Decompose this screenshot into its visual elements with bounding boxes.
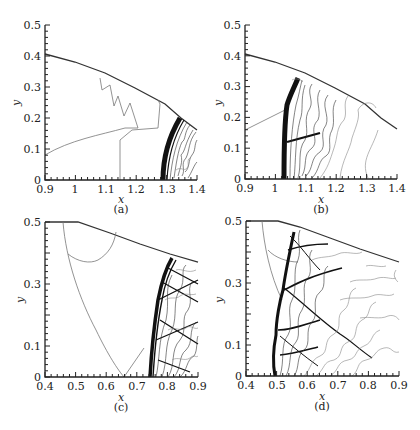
contour-line <box>268 250 298 262</box>
svg-text:1.4: 1.4 <box>388 182 406 195</box>
contour-line <box>124 348 144 377</box>
svg-text:0.2: 0.2 <box>24 112 42 125</box>
svg-text:0.8: 0.8 <box>359 379 377 392</box>
outer-boundary <box>246 221 399 262</box>
y-axis-label: y <box>10 99 23 107</box>
svg-text:0.3: 0.3 <box>225 277 243 290</box>
svg-text:0.5: 0.5 <box>24 216 42 229</box>
svg-text:0.8: 0.8 <box>158 380 176 393</box>
axes-frame <box>45 25 197 180</box>
axes-frame <box>245 25 397 179</box>
panel-caption: (d) <box>314 400 330 413</box>
svg-text:0.6: 0.6 <box>97 380 115 393</box>
y-axis-label: y <box>14 296 27 304</box>
svg-text:0.9: 0.9 <box>36 183 54 196</box>
svg-text:1.3: 1.3 <box>358 182 376 195</box>
panel-d: 0 0.1 0.3 0.5 0.4 0.5 0.6 0.7 0.8 0.9 x … <box>213 215 408 413</box>
svg-text:0.9: 0.9 <box>189 380 207 393</box>
svg-text:0.1: 0.1 <box>24 143 42 156</box>
panel-d-plot-area <box>246 221 399 376</box>
svg-text:0.4: 0.4 <box>36 380 54 393</box>
svg-text:0.9: 0.9 <box>390 379 408 392</box>
svg-text:1.2: 1.2 <box>127 183 145 196</box>
shock-front <box>284 78 298 179</box>
contour-line <box>63 222 124 377</box>
panel-b-plot-area <box>245 54 397 179</box>
y-tick-labels: 0 0.1 0.2 0.3 0.4 0.5 <box>224 19 242 186</box>
contour-line <box>245 110 285 130</box>
svg-text:0.5: 0.5 <box>67 380 85 393</box>
y-tick-labels: 0 0.1 0.2 0.3 0.4 0.5 <box>24 19 42 187</box>
svg-text:0.7: 0.7 <box>329 379 347 392</box>
contour-line <box>262 221 282 300</box>
svg-text:1.4: 1.4 <box>188 183 206 196</box>
svg-text:0.1: 0.1 <box>225 339 243 352</box>
svg-text:0.9: 0.9 <box>236 182 254 195</box>
panel-a-plot-area <box>45 54 197 180</box>
svg-text:1.1: 1.1 <box>97 183 115 196</box>
svg-text:0.7: 0.7 <box>128 380 146 393</box>
y-axis-label: y <box>213 296 226 304</box>
svg-text:0.5: 0.5 <box>224 19 242 32</box>
svg-text:1.1: 1.1 <box>297 182 315 195</box>
svg-text:1: 1 <box>72 183 79 196</box>
svg-text:0.5: 0.5 <box>268 379 286 392</box>
outer-boundary <box>245 54 397 129</box>
svg-text:0.5: 0.5 <box>24 19 42 32</box>
svg-text:0.3: 0.3 <box>224 80 242 93</box>
svg-text:0.5: 0.5 <box>225 215 243 228</box>
svg-text:1: 1 <box>272 182 279 195</box>
panel-caption: (c) <box>114 401 129 414</box>
contour-line <box>45 78 138 155</box>
axes-frame <box>45 222 198 377</box>
svg-text:0.1: 0.1 <box>24 340 42 353</box>
panel-b: 0 0.1 0.2 0.3 0.4 0.5 0.9 1 1.1 1.2 1.3 … <box>212 19 406 216</box>
panel-caption: (a) <box>113 203 128 216</box>
panel-a: 0 0.1 0.2 0.3 0.4 0.5 0.9 1 1.1 1.2 1.3 … <box>10 19 206 216</box>
panel-c: 0 0.1 0.3 0.5 0.4 0.5 0.6 0.7 0.8 0.9 x … <box>14 216 207 414</box>
svg-text:0.4: 0.4 <box>237 379 255 392</box>
svg-text:0.6: 0.6 <box>298 379 316 392</box>
figure: 0 0.1 0.2 0.3 0.4 0.5 0.9 1 1.1 1.2 1.3 … <box>0 0 420 430</box>
svg-text:0.3: 0.3 <box>24 81 42 94</box>
svg-text:1.3: 1.3 <box>158 183 176 196</box>
outer-boundary <box>45 54 197 130</box>
panel-caption: (b) <box>313 203 329 216</box>
tick-marks <box>45 25 399 377</box>
svg-text:1.2: 1.2 <box>327 182 345 195</box>
contour-line <box>68 232 116 262</box>
y-tick-labels: 0 0.1 0.3 0.5 <box>225 215 243 383</box>
svg-text:0.4: 0.4 <box>24 50 42 63</box>
svg-text:0.3: 0.3 <box>24 278 42 291</box>
y-axis-label: y <box>212 99 225 107</box>
svg-text:0.2: 0.2 <box>224 111 242 124</box>
svg-text:0.1: 0.1 <box>224 142 242 155</box>
panel-c-plot-area <box>45 222 198 377</box>
svg-text:0.4: 0.4 <box>224 50 242 63</box>
